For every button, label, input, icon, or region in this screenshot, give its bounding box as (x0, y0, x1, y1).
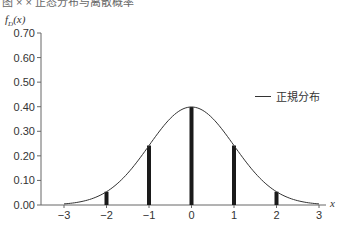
chart-bars (105, 107, 279, 205)
bar (147, 146, 151, 205)
bar (275, 192, 279, 205)
legend-line-icon (255, 96, 271, 97)
bar (190, 107, 194, 205)
chart-axes (37, 33, 326, 208)
bar (232, 146, 236, 205)
bar (105, 192, 109, 205)
chart-plot-area (0, 0, 347, 228)
chart-legend: 正規分布 (255, 88, 320, 104)
legend-label: 正規分布 (276, 88, 320, 104)
